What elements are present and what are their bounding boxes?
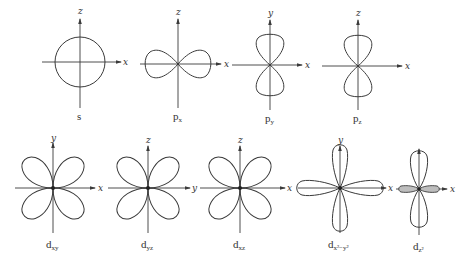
y-axis-label: y: [267, 8, 274, 18]
x-axis-label: x: [450, 184, 455, 194]
orbital-shapes-diagram: x z s x z px x y py x z pz: [0, 0, 465, 264]
orbital-label-dxy: dxy: [46, 238, 59, 252]
y-axis-label: y: [337, 135, 344, 145]
orbital-label-pz: pz: [353, 112, 362, 126]
x-axis-label: x: [123, 57, 128, 67]
y-axis-label: y: [50, 133, 57, 143]
z-axis-label: z: [145, 135, 151, 145]
orbital-label-dyz: dyz: [141, 238, 153, 252]
orbital-dxz: x z dxz: [200, 135, 292, 252]
nucleus: [146, 186, 150, 190]
orbital-dyz: y z dyz: [108, 135, 198, 252]
orbital-px: x z px: [140, 7, 229, 124]
z-axis-label: z: [175, 7, 181, 17]
x-axis-label: x: [287, 183, 292, 193]
orbital-dxy: x y dxy: [15, 133, 103, 252]
orbital-py: x y py: [232, 8, 310, 126]
orbital-label-dx2-y2: dx²−y²: [328, 238, 349, 252]
nucleus: [238, 186, 242, 190]
x-axis-label: x: [305, 60, 310, 70]
orbital-dx2-y2: x y dx²−y²: [297, 135, 393, 252]
orbital-label-dz2: dz²: [413, 240, 424, 254]
orbital-pz: x z pz: [322, 8, 410, 126]
orbital-label-px: px: [173, 110, 183, 124]
orbital-label-dxz: dxz: [233, 238, 245, 252]
orbital-label-s: s: [77, 110, 81, 122]
nucleus: [51, 186, 55, 190]
nucleus: [417, 187, 421, 191]
orbital-label-py: py: [265, 112, 275, 126]
z-axis-label: z: [237, 135, 243, 145]
y-axis-label: y: [191, 183, 198, 193]
torus-right: [419, 186, 439, 193]
nucleus: [338, 186, 342, 190]
orbital-dz2: x dz²: [396, 149, 455, 254]
orbital-s: x z s: [42, 6, 128, 122]
x-axis-label: x: [405, 61, 410, 71]
x-axis-label: x: [98, 183, 103, 193]
torus-left: [399, 186, 419, 193]
x-axis-label: x: [224, 59, 229, 69]
z-axis-label: z: [355, 8, 361, 18]
z-axis-label: z: [77, 6, 83, 16]
x-axis-label: x: [388, 183, 393, 193]
